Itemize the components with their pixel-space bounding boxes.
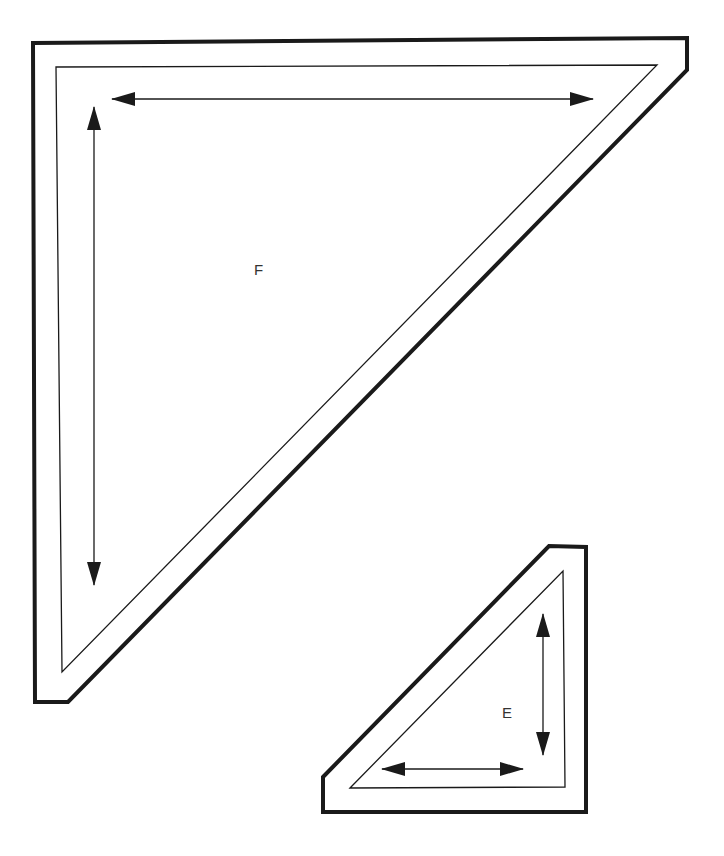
pattern-canvas: F E (0, 0, 724, 856)
piece-E: E (323, 546, 586, 812)
piece-E-seam-line (350, 571, 565, 788)
piece-F-seam-line (56, 65, 657, 672)
piece-E-cutting-line (323, 546, 586, 812)
piece-F-label: F (254, 261, 263, 278)
piece-F: F (33, 38, 687, 702)
piece-E-label: E (502, 704, 512, 721)
